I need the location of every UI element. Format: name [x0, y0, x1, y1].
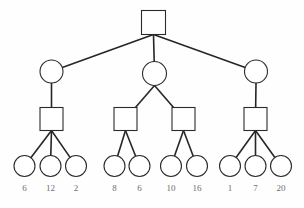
leaf-value-label: 20: [277, 183, 287, 193]
tree-edge: [236, 131, 255, 158]
leaf-value-label: 8: [112, 183, 117, 193]
leaf-node-circle-9[interactable]: [271, 156, 292, 177]
level2-node-circle-2[interactable]: [245, 60, 268, 83]
tree-edge: [51, 131, 52, 156]
tree-edge: [135, 86, 154, 108]
leaf-value-label: 6: [137, 183, 142, 193]
edges-group: [31, 35, 275, 158]
tree-edge: [174, 131, 183, 157]
tree-edge: [118, 131, 126, 156]
level2-node-circle-1[interactable]: [143, 62, 167, 86]
leaf-labels-group: 61228610161720: [22, 183, 286, 193]
tree-edge: [126, 131, 136, 157]
level2-node-circle-0[interactable]: [40, 60, 63, 83]
leaf-node-circle-7[interactable]: [220, 156, 241, 177]
level3-node-square-0[interactable]: [40, 108, 63, 131]
leaf-node-circle-3[interactable]: [104, 156, 125, 177]
tree-diagram-canvas: 61228610161720: [0, 0, 304, 208]
leaf-node-circle-0[interactable]: [14, 156, 35, 177]
leaf-value-label: 16: [193, 183, 203, 193]
tree-edge: [154, 35, 246, 68]
leaf-value-label: 10: [167, 183, 177, 193]
leaf-value-label: 7: [253, 183, 258, 193]
leaf-node-circle-2[interactable]: [66, 156, 87, 177]
tree-edge: [155, 86, 174, 108]
level3-node-square-1[interactable]: [114, 108, 137, 131]
root-node-square-0[interactable]: [142, 11, 166, 35]
tree-diagram-svg: 61228610161720: [0, 0, 304, 208]
tree-edge: [31, 131, 52, 158]
tree-edge: [256, 131, 275, 158]
leaf-value-label: 2: [74, 183, 79, 193]
level3-node-square-2[interactable]: [172, 108, 195, 131]
leaf-node-circle-6[interactable]: [187, 156, 208, 177]
tree-edge: [52, 131, 71, 158]
leaf-node-circle-4[interactable]: [129, 156, 150, 177]
leaf-node-circle-1[interactable]: [40, 156, 61, 177]
leaf-value-label: 6: [22, 183, 27, 193]
tree-edge: [62, 35, 153, 68]
leaf-node-circle-8[interactable]: [245, 156, 266, 177]
tree-edge: [184, 131, 194, 157]
tree-edge: [154, 35, 155, 62]
leaf-node-circle-5[interactable]: [161, 156, 182, 177]
level3-node-square-3[interactable]: [244, 108, 267, 131]
leaf-value-label: 1: [228, 183, 233, 193]
leaf-value-label: 12: [46, 183, 55, 193]
